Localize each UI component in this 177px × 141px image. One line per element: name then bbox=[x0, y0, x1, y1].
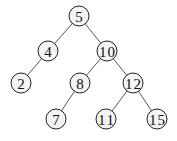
node-label: 11 bbox=[98, 112, 114, 128]
tree-node-5: 5 bbox=[69, 6, 89, 26]
node-label: 10 bbox=[99, 44, 115, 60]
tree-node-11: 11 bbox=[96, 109, 116, 129]
node-label: 8 bbox=[76, 76, 84, 92]
node-label: 12 bbox=[125, 76, 141, 92]
node-label: 2 bbox=[17, 76, 25, 92]
node-label: 5 bbox=[75, 9, 83, 25]
tree-node-10: 10 bbox=[97, 41, 117, 61]
tree-node-7: 7 bbox=[46, 109, 66, 129]
tree-diagram: 5410281271115 bbox=[0, 0, 177, 141]
node-label: 15 bbox=[149, 112, 165, 128]
tree-node-4: 4 bbox=[38, 41, 58, 61]
tree-node-12: 12 bbox=[123, 73, 143, 93]
tree-edges bbox=[21, 16, 157, 119]
node-label: 4 bbox=[44, 44, 52, 60]
tree-node-8: 8 bbox=[70, 73, 90, 93]
node-label: 7 bbox=[52, 112, 60, 128]
tree-node-2: 2 bbox=[11, 73, 31, 93]
tree-node-15: 15 bbox=[147, 109, 167, 129]
